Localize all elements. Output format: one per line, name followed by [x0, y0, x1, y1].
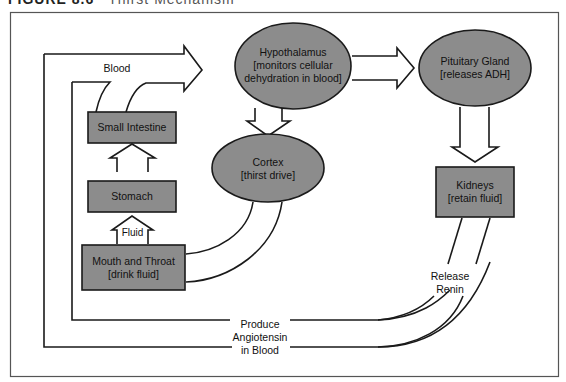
- cortex-label: Cortex [thirst drive]: [212, 156, 324, 182]
- in-blood-text: in Blood: [230, 344, 290, 357]
- pituitary-title: Pituitary Gland: [419, 55, 531, 68]
- pituitary-desc: [releases ADH]: [419, 68, 531, 81]
- fluid-text: Fluid: [117, 226, 148, 239]
- stomach-title: Stomach: [88, 190, 176, 203]
- cortex-to-mouth-line-1: [186, 202, 253, 254]
- blood-text: Blood: [92, 62, 142, 75]
- hypothalamus-to-cortex-arrow: [247, 108, 290, 136]
- produce-text: Produce: [230, 318, 290, 331]
- hypothalamus-to-pituitary-arrow: [352, 48, 414, 88]
- mouth-throat-desc: [drink fluid]: [82, 268, 185, 281]
- pituitary-to-kidneys-arrow: [452, 107, 498, 162]
- cortex-title: Cortex: [212, 156, 324, 169]
- mouth-throat-label: Mouth and Throat [drink fluid]: [82, 255, 185, 281]
- hypothalamus-desc-2: dehydration in blood]: [235, 72, 351, 85]
- kidneys-desc: [retain fluid]: [436, 192, 514, 205]
- hypothalamus-title: Hypothalamus: [235, 46, 351, 59]
- kidneys-label: Kidneys [retain fluid]: [436, 179, 514, 205]
- cortex-desc: [thirst drive]: [212, 169, 324, 182]
- mouth-throat-title: Mouth and Throat: [82, 255, 185, 268]
- small-intestine-label: Small Intestine: [88, 121, 176, 134]
- blood-arrow-inner-left: [72, 82, 110, 112]
- release-renin-label: Release Renin: [420, 270, 480, 296]
- produce-angiotensin-label: Produce Angiotensin in Blood: [230, 318, 290, 357]
- kidneys-title: Kidneys: [436, 179, 514, 192]
- blood-edge-label: Blood: [92, 62, 142, 75]
- small-intestine-title: Small Intestine: [88, 121, 176, 134]
- kidneys-renin-line-2: [476, 218, 490, 264]
- stomach-to-intestine-arrow: [110, 144, 155, 172]
- stomach-label: Stomach: [88, 190, 176, 203]
- hypothalamus-desc-1: [monitors cellular: [235, 59, 351, 72]
- hypothalamus-label: Hypothalamus [monitors cellular dehydrat…: [235, 46, 351, 85]
- fluid-edge-label: Fluid: [117, 226, 148, 239]
- cortex-to-mouth-line-2: [186, 202, 282, 282]
- kidneys-renin-line-1: [448, 218, 462, 264]
- renin-text: Renin: [420, 283, 480, 296]
- angiotensin-text: Angiotensin: [230, 331, 290, 344]
- pituitary-label: Pituitary Gland [releases ADH]: [419, 55, 531, 81]
- blood-arrow: [44, 46, 202, 112]
- release-text: Release: [420, 270, 480, 283]
